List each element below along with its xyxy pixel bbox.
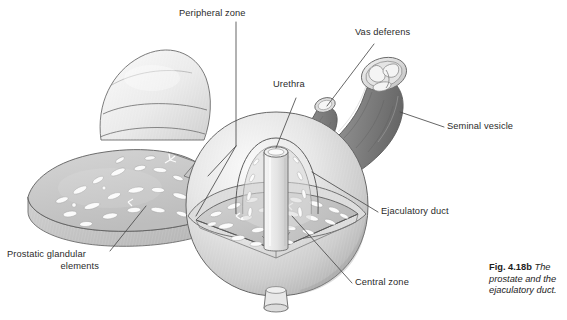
figure-caption-number: Fig. 4.18b — [489, 262, 532, 272]
label-central-zone: Central zone — [355, 277, 409, 289]
figure-caption-line2: prostate and the — [489, 274, 556, 284]
peripheral-zone-detached-cap — [100, 50, 210, 140]
figure-caption: Fig. 4.18b The prostate and the ejaculat… — [489, 262, 567, 297]
urethra-column — [264, 147, 288, 251]
label-seminal-vesicle: Seminal vesicle — [447, 121, 513, 133]
label-vas-deferens: Vas deferens — [355, 27, 410, 39]
label-prostatic-glandular-line2: elements — [7, 261, 105, 273]
figure-caption-line1: The — [534, 262, 550, 272]
leader-seminal-vesicle — [400, 112, 444, 127]
label-prostatic-glandular-line1: Prostatic glandular — [7, 249, 105, 261]
label-peripheral-zone: Peripheral zone — [179, 8, 246, 20]
label-urethra: Urethra — [273, 79, 305, 91]
anatomy-illustration — [0, 0, 567, 320]
label-prostatic-glandular-elements: Prostatic glandular elements — [7, 249, 105, 272]
label-ejaculatory-duct: Ejaculatory duct — [381, 206, 449, 218]
figure-caption-line3: ejaculatory duct. — [489, 285, 557, 295]
prostate-figure: Peripheral zone Urethra Vas deferens Sem… — [0, 0, 567, 320]
